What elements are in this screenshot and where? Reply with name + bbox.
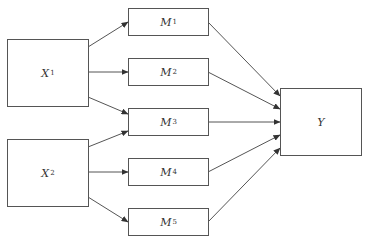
node-m5-subscript: 5: [172, 218, 176, 226]
node-x1-subscript: 1: [50, 69, 54, 77]
node-x2: X2: [7, 139, 89, 207]
node-m4-subscript: 4: [172, 168, 176, 176]
node-m3-label: M: [160, 116, 171, 129]
node-m1-subscript: 1: [172, 18, 176, 26]
arrow-m4-y: [208, 135, 280, 172]
node-y-label: Y: [317, 116, 324, 129]
node-x1: X1: [7, 39, 89, 107]
arrow-x1-m3: [88, 97, 128, 114]
arrow-m5-y: [208, 148, 280, 222]
node-m4-label: M: [160, 166, 171, 179]
node-m1: M1: [128, 8, 209, 36]
path-diagram: X1 X2 M1 M2 M3 M4 M5 Y: [0, 0, 369, 244]
arrow-m2-y: [208, 72, 280, 109]
node-x2-label: X: [41, 167, 49, 180]
node-m2-label: M: [160, 66, 171, 79]
node-m3-subscript: 3: [172, 118, 176, 126]
node-m4: M4: [128, 158, 209, 186]
node-m5: M5: [128, 208, 209, 236]
node-m5-label: M: [160, 216, 171, 229]
node-y: Y: [280, 88, 362, 156]
node-m2: M2: [128, 58, 209, 86]
arrow-x1-m1: [88, 22, 128, 47]
node-m3: M3: [128, 108, 209, 136]
node-x2-subscript: 2: [50, 169, 54, 177]
arrow-m1-y: [208, 22, 280, 96]
arrow-x2-m3: [88, 131, 128, 147]
arrow-x2-m5: [88, 197, 128, 222]
node-m2-subscript: 2: [172, 68, 176, 76]
node-x1-label: X: [41, 67, 49, 80]
node-m1-label: M: [160, 16, 171, 29]
